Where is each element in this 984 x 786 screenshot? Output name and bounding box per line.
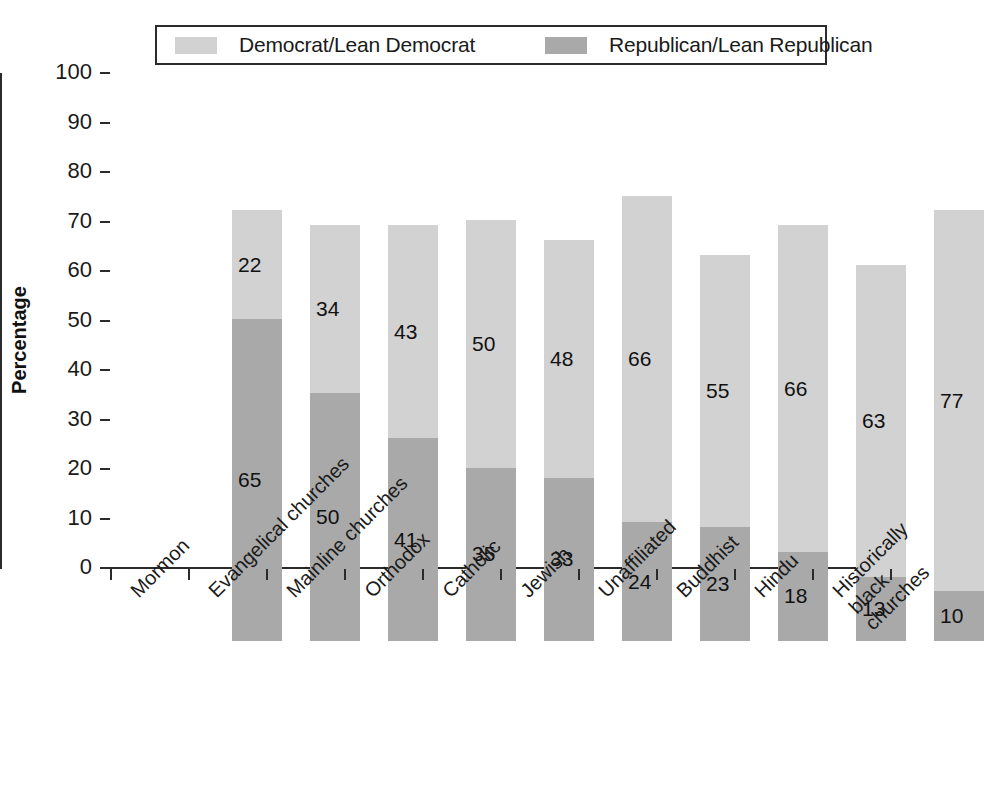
x-axis-tick <box>344 569 346 580</box>
bar-segment-democrat[interactable]: 22 <box>232 210 282 319</box>
x-axis-tick <box>266 569 268 580</box>
y-axis-tick <box>100 72 110 74</box>
y-axis-tick <box>100 419 110 421</box>
y-axis-tick-label: 10 <box>32 507 92 529</box>
legend-label-republican: Republican/Lean Republican <box>609 33 872 57</box>
y-axis-tick-label: 50 <box>32 309 92 331</box>
bar-segment-democrat[interactable]: 48 <box>544 240 594 478</box>
bar-value-label-democrat: 77 <box>940 390 963 411</box>
x-axis-tick <box>500 569 502 580</box>
x-axis-tick <box>110 569 112 580</box>
bar-value-label-republican: 10 <box>940 605 963 626</box>
y-axis-tick <box>100 320 110 322</box>
y-axis-title: Percentage <box>8 286 31 394</box>
bar-segment-democrat[interactable]: 34 <box>310 225 360 393</box>
bar-value-label-republican: 18 <box>784 585 807 606</box>
bar-segment-democrat[interactable]: 55 <box>700 255 750 527</box>
y-axis-tick <box>100 171 110 173</box>
y-axis-tick <box>100 567 110 569</box>
legend-entry-democrat: Democrat/Lean Democrat <box>175 27 475 63</box>
x-axis-tick <box>422 569 424 580</box>
y-axis-tick <box>100 122 110 124</box>
bar-value-label-republican: 65 <box>238 469 261 490</box>
bar-segment-democrat[interactable]: 66 <box>622 196 672 523</box>
bar-value-label-democrat: 43 <box>394 321 417 342</box>
x-axis-tick <box>578 569 580 580</box>
y-axis-tick-label: 90 <box>32 111 92 133</box>
y-axis-tick <box>100 468 110 470</box>
democrat-swatch-icon <box>175 37 217 54</box>
bar-value-label-democrat: 66 <box>784 378 807 399</box>
bar-value-label-democrat: 55 <box>706 380 729 401</box>
plot-area: 2265345043415035483366245523661863137710 <box>110 73 890 568</box>
y-axis-tick-label: 30 <box>32 408 92 430</box>
bar-segment-democrat[interactable]: 50 <box>466 220 516 468</box>
republican-swatch-icon <box>545 37 587 54</box>
y-axis-tick-label: 40 <box>32 358 92 380</box>
bar-group[interactable]: 7710 <box>934 210 984 641</box>
y-axis-tick <box>100 270 110 272</box>
bar-value-label-democrat: 34 <box>316 298 339 319</box>
legend-label-democrat: Democrat/Lean Democrat <box>239 33 475 57</box>
y-axis-tick <box>100 518 110 520</box>
x-axis-tick <box>656 569 658 580</box>
x-axis-tick <box>812 569 814 580</box>
y-axis-line <box>0 73 2 569</box>
bar-segment-republican[interactable]: 10 <box>934 591 984 641</box>
y-axis-tick-label: 70 <box>32 210 92 232</box>
bar-value-label-democrat: 63 <box>862 410 885 431</box>
x-axis-tick <box>734 569 736 580</box>
bar-group[interactable]: 5523 <box>700 255 750 641</box>
y-axis-tick-label: 0 <box>32 556 92 578</box>
y-axis-tick <box>100 221 110 223</box>
bar-segment-democrat[interactable]: 66 <box>778 225 828 552</box>
bar-value-label-democrat: 66 <box>628 348 651 369</box>
bar-segment-democrat[interactable]: 77 <box>934 210 984 591</box>
bar-value-label-democrat: 50 <box>472 333 495 354</box>
y-axis-tick-label: 20 <box>32 457 92 479</box>
bar-segment-republican[interactable]: 65 <box>232 319 282 641</box>
bar-value-label-democrat: 22 <box>238 254 261 275</box>
x-axis-tick <box>890 569 892 580</box>
x-axis-tick <box>188 569 190 580</box>
bar-segment-democrat[interactable]: 43 <box>388 225 438 438</box>
legend-entry-republican: Republican/Lean Republican <box>545 27 872 63</box>
bar-value-label-republican: 50 <box>316 506 339 527</box>
y-axis-tick <box>100 369 110 371</box>
bar-value-label-democrat: 48 <box>550 348 573 369</box>
y-axis-tick-label: 60 <box>32 259 92 281</box>
y-axis-tick-label: 80 <box>32 160 92 182</box>
y-axis-tick-label: 100 <box>32 61 92 83</box>
chart-legend: Democrat/Lean Democrat Republican/Lean R… <box>155 25 827 65</box>
